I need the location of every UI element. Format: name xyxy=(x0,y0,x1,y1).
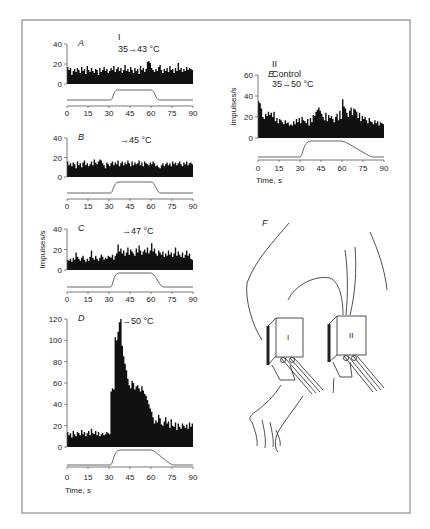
y-tick-label: 40 xyxy=(244,92,253,101)
panel-label: C xyxy=(78,223,85,233)
x-tick-label: 15 xyxy=(84,109,93,118)
x-tick-label: 90 xyxy=(189,295,198,304)
x-tick-label: 75 xyxy=(168,473,177,482)
x-tick-label: 45 xyxy=(126,109,135,118)
y-tick-label: 0 xyxy=(58,173,63,182)
y-tick-label: 20 xyxy=(53,422,62,431)
hand-outline xyxy=(252,420,280,448)
forearm-outline xyxy=(250,385,281,422)
stimulus-trace xyxy=(67,182,193,193)
y-tick-label: 100 xyxy=(49,336,63,345)
x-tick-label: 15 xyxy=(84,295,93,304)
figure-canvas: 02040AI35→43 °C015304560759002040B→45 °C… xyxy=(0,0,430,529)
panel-label: A xyxy=(77,38,84,48)
panel-label: D xyxy=(78,313,85,323)
x-axis-label: Time, s xyxy=(65,486,91,495)
x-tick-label: 0 xyxy=(65,202,70,211)
y-tick-label: 120 xyxy=(49,315,63,324)
y-tick-label: 40 xyxy=(53,40,62,49)
arm-outline xyxy=(345,250,347,315)
histogram-bars xyxy=(67,159,193,177)
y-tick-label: 20 xyxy=(53,246,62,255)
x-tick-label: 30 xyxy=(105,109,114,118)
stimulus-title: 35→43 °C xyxy=(118,44,160,54)
x-tick-label: 75 xyxy=(359,164,368,173)
x-tick-label: 60 xyxy=(338,164,347,173)
stimulus-title: II xyxy=(272,59,277,69)
stimulus-title: I xyxy=(118,32,121,42)
chart-panels: 02040AI35→43 °C015304560759002040B→45 °C… xyxy=(38,32,389,495)
chart-panel-A: 02040AI35→43 °C0153045607590 xyxy=(53,32,198,118)
arm-outline xyxy=(370,232,387,290)
x-tick-label: 45 xyxy=(317,164,326,173)
probe-II: II xyxy=(329,316,384,392)
figure: 02040AI35→43 °C015304560759002040B→45 °C… xyxy=(0,0,430,529)
y-tick-label: 0 xyxy=(58,80,63,89)
stimulus-title: →50 °C xyxy=(122,316,154,326)
x-tick-label: 60 xyxy=(147,295,156,304)
stimulus-trace xyxy=(67,90,193,100)
y-tick-label: 40 xyxy=(53,225,62,234)
stimulus-trace xyxy=(258,141,384,157)
x-tick-label: 15 xyxy=(275,164,284,173)
x-tick-label: 30 xyxy=(105,473,114,482)
chart-panel-C: 02040C→47 °CImpulses/s0153045607590 xyxy=(38,223,198,304)
y-tick-label: 0 xyxy=(249,134,254,143)
arm-outline xyxy=(350,247,356,315)
stimulus-title: →45 °C xyxy=(120,135,152,145)
x-tick-label: 90 xyxy=(189,473,198,482)
x-tick-label: 15 xyxy=(84,202,93,211)
x-tick-label: 75 xyxy=(168,202,177,211)
stimulus-title: Control xyxy=(272,69,301,79)
stimulus-title: 35→50 °C xyxy=(272,79,314,89)
panel-F-label: F xyxy=(262,218,268,228)
stimulus-trace xyxy=(67,450,193,465)
histogram-bars xyxy=(67,61,193,84)
y-tick-label: 20 xyxy=(53,60,62,69)
x-tick-label: 15 xyxy=(84,473,93,482)
x-tick-label: 60 xyxy=(147,109,156,118)
y-axis-label: Impulses/s xyxy=(38,230,47,268)
hand-outline xyxy=(333,378,334,393)
x-tick-label: 45 xyxy=(126,295,135,304)
x-tick-label: 0 xyxy=(65,473,70,482)
y-tick-label: 20 xyxy=(53,154,62,163)
stimulus-trace xyxy=(67,273,193,287)
y-tick-label: 0 xyxy=(58,443,63,452)
y-tick-label: 20 xyxy=(244,113,253,122)
x-axis-label: Time, s xyxy=(256,176,282,185)
x-tick-label: 0 xyxy=(65,295,70,304)
panel-label: B xyxy=(78,132,84,142)
x-tick-label: 75 xyxy=(168,109,177,118)
y-tick-label: 40 xyxy=(53,400,62,409)
stimulus-title: →47 °C xyxy=(122,226,154,236)
y-tick-label: 60 xyxy=(244,71,253,80)
x-tick-label: 90 xyxy=(189,109,198,118)
y-tick-label: 60 xyxy=(53,379,62,388)
x-tick-label: 30 xyxy=(105,202,114,211)
x-tick-label: 90 xyxy=(380,164,389,173)
y-tick-label: 40 xyxy=(53,134,62,143)
y-tick-label: 0 xyxy=(58,266,63,275)
panel-F-illustration: F I xyxy=(247,218,387,452)
probe-I-label: I xyxy=(287,333,289,342)
x-tick-label: 75 xyxy=(168,295,177,304)
x-tick-label: 60 xyxy=(147,202,156,211)
arm-outline xyxy=(288,277,343,315)
probe-I: I xyxy=(268,318,323,394)
chart-panel-D: 020406080100120D→50 °C0153045607590Time,… xyxy=(49,313,198,495)
x-tick-label: 60 xyxy=(147,473,156,482)
y-tick-label: 80 xyxy=(53,358,62,367)
x-tick-label: 30 xyxy=(296,164,305,173)
x-tick-label: 45 xyxy=(126,473,135,482)
probe-II-label: II xyxy=(349,331,353,340)
y-axis-label: Impulses/s xyxy=(229,87,238,125)
x-tick-label: 45 xyxy=(126,202,135,211)
histogram-bars xyxy=(258,99,384,138)
histogram-bars xyxy=(67,243,193,270)
histogram-bars xyxy=(67,319,193,447)
x-tick-label: 30 xyxy=(105,295,114,304)
x-tick-label: 90 xyxy=(189,202,198,211)
x-tick-label: 0 xyxy=(65,109,70,118)
x-tick-label: 0 xyxy=(256,164,261,173)
